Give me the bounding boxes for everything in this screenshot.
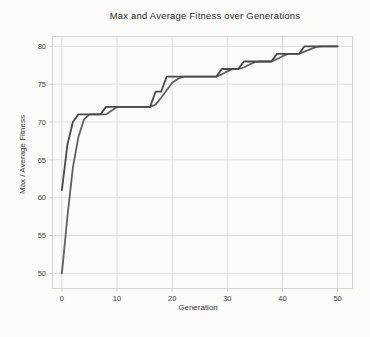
y-tick-label: 50 — [38, 269, 46, 278]
y-tick-label: 80 — [38, 42, 46, 51]
chart-canvas: 0102030405050556065707580 — [0, 0, 370, 337]
x-tick-label: 0 — [60, 294, 64, 303]
max-fitness-line — [62, 46, 338, 190]
y-tick-label: 70 — [38, 118, 46, 127]
y-tick-label: 55 — [38, 231, 46, 240]
x-tick-label: 40 — [278, 294, 286, 303]
x-tick-label: 30 — [223, 294, 231, 303]
y-tick-label: 75 — [38, 80, 46, 89]
x-tick-label: 50 — [333, 294, 341, 303]
y-axis-label: Max / Average Fitness — [16, 55, 28, 255]
y-tick-label: 60 — [38, 193, 46, 202]
x-tick-label: 10 — [113, 294, 121, 303]
fitness-chart-figure: Max and Average Fitness over Generations… — [0, 0, 370, 337]
x-axis-label: Generation — [53, 303, 343, 312]
x-tick-label: 20 — [168, 294, 176, 303]
y-tick-label: 65 — [38, 156, 46, 165]
plot-frame — [53, 37, 353, 289]
